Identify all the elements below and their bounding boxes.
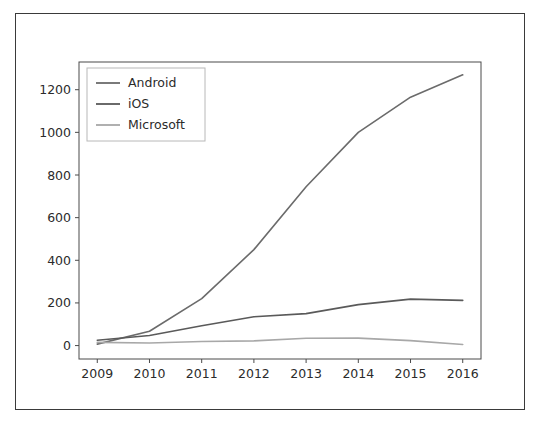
y-tick-label: 400: [47, 253, 71, 268]
y-tick-label: 200: [47, 295, 71, 310]
x-tick-label: 2010: [134, 366, 166, 381]
x-tick-label: 2016: [447, 366, 479, 381]
series-line-ios: [97, 299, 462, 340]
legend-label-ios: iOS: [128, 96, 149, 111]
x-tick-label: 2012: [238, 366, 270, 381]
x-tick-label: 2009: [81, 366, 113, 381]
legend-label-microsoft: Microsoft: [128, 117, 185, 132]
x-tick-label: 2011: [186, 366, 218, 381]
y-tick-label: 1200: [39, 82, 71, 97]
legend-label-android: Android: [128, 75, 176, 90]
y-tick-label: 1000: [39, 125, 71, 140]
line-chart: 0200400600800100012002009201020112012201…: [0, 0, 539, 422]
series-line-microsoft: [97, 338, 462, 344]
x-tick-label: 2013: [290, 366, 322, 381]
y-tick-label: 800: [47, 168, 71, 183]
x-tick-label: 2014: [342, 366, 374, 381]
figure-canvas: 0200400600800100012002009201020112012201…: [0, 0, 539, 422]
chart-legend[interactable]: AndroidiOSMicrosoft: [87, 68, 205, 141]
x-tick-label: 2015: [395, 366, 427, 381]
y-tick-label: 600: [47, 210, 71, 225]
y-tick-label: 0: [63, 338, 71, 353]
